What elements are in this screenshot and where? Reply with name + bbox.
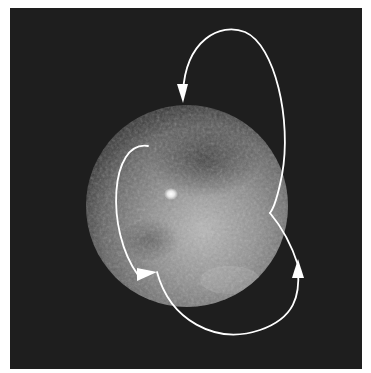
arrow-head-up-icon [292, 259, 304, 278]
bright-spot [164, 188, 178, 200]
arrow-head-down-icon [177, 84, 188, 103]
scene [0, 0, 371, 373]
